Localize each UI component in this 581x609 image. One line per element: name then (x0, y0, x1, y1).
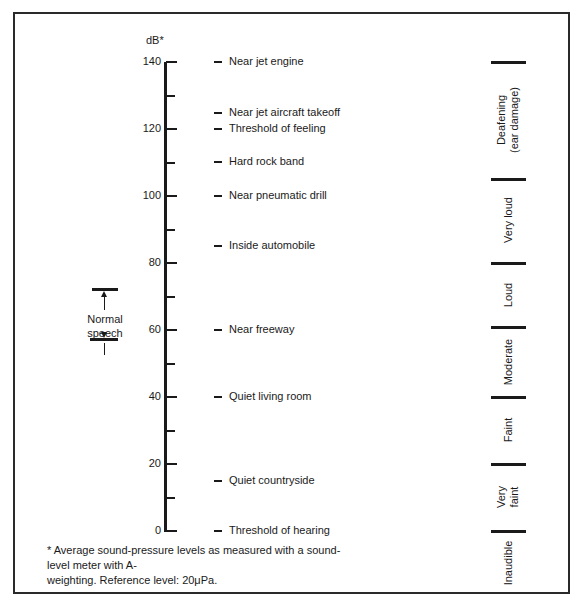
source-threshold-hearing: Threshold of hearing (214, 524, 330, 536)
dash-marker (214, 128, 222, 130)
source-label: Threshold of hearing (229, 524, 330, 536)
source-label: Hard rock band (229, 155, 304, 167)
tick-80 (166, 262, 177, 264)
category-bar (491, 326, 526, 329)
tick-40 (166, 396, 177, 398)
category-deafening: Deafening(ear damage) (495, 87, 521, 153)
minor-tick (166, 229, 175, 231)
category-bar (491, 178, 526, 181)
source-quiet-living-room: Quiet living room (214, 390, 312, 402)
source-label: Threshold of feeling (229, 122, 326, 134)
minor-tick (166, 95, 175, 97)
tick-label: 20 (121, 457, 161, 469)
source-label: Near pneumatic drill (229, 189, 327, 201)
source-threshold-feeling: Threshold of feeling (214, 122, 326, 134)
tick-label: 100 (121, 189, 161, 201)
minor-tick (166, 430, 175, 432)
dash-marker (214, 195, 222, 197)
dash-marker (214, 530, 222, 532)
category-inaudible: Inaudible (502, 541, 515, 586)
tick-120 (166, 128, 177, 130)
source-label: Near jet engine (229, 55, 304, 67)
category-bar (491, 262, 526, 265)
tick-label: 120 (121, 122, 161, 134)
category-very-faint: Veryfaint (495, 486, 521, 508)
category-very-loud: Very loud (502, 197, 515, 243)
source-near-freeway: Near freeway (214, 323, 294, 335)
speech-bottom-bar (90, 338, 118, 341)
source-label: Quiet countryside (229, 474, 315, 486)
tick-label: 0 (121, 524, 161, 536)
dash-marker (214, 112, 222, 114)
category-label: Inaudible (502, 541, 515, 586)
category-bar (491, 463, 526, 466)
category-label: Very (495, 486, 508, 508)
axis-unit-label: dB* (146, 34, 164, 46)
source-pneumatic-drill: Near pneumatic drill (214, 189, 327, 201)
source-label: Near jet aircraft takeoff (229, 106, 340, 118)
minor-tick (166, 296, 175, 298)
tick-20 (166, 463, 177, 465)
source-label: Quiet living room (229, 390, 312, 402)
category-label: Deafening (495, 87, 508, 153)
tick-60 (166, 329, 177, 331)
category-bar (491, 61, 526, 64)
tick-label: 80 (121, 256, 161, 268)
minor-tick (166, 363, 175, 365)
category-label: Faint (502, 418, 515, 442)
source-hard-rock-band: Hard rock band (214, 155, 304, 167)
source-jet-takeoff: Near jet aircraft takeoff (214, 106, 340, 118)
speech-line1: Normal (81, 312, 129, 326)
category-bar (491, 530, 526, 533)
tick-100 (166, 195, 177, 197)
category-bar (491, 396, 526, 399)
footnote-line1: * Average sound-pressure levels as measu… (47, 543, 357, 573)
source-label: Inside automobile (229, 239, 315, 251)
category-label: Loud (502, 283, 515, 307)
footnote-line2: weighting. Reference level: 20μPa. (47, 573, 357, 588)
category-loud: Loud (502, 283, 515, 307)
dash-marker (214, 245, 222, 247)
source-inside-automobile: Inside automobile (214, 239, 315, 251)
tick-140 (166, 61, 177, 63)
dash-marker (214, 329, 222, 331)
tick-0 (166, 530, 177, 532)
category-label: faint (508, 486, 521, 508)
category-faint: Faint (502, 418, 515, 442)
source-near-jet-engine: Near jet engine (214, 55, 304, 67)
speech-line-top (104, 296, 105, 310)
footnote: * Average sound-pressure levels as measu… (47, 543, 357, 588)
category-moderate: Moderate (502, 339, 515, 385)
category-label: Moderate (502, 339, 515, 385)
category-label: Very loud (502, 197, 515, 243)
source-label: Near freeway (229, 323, 294, 335)
tick-label: 140 (121, 55, 161, 67)
dash-marker (214, 396, 222, 398)
dash-marker (214, 480, 222, 482)
figure-frame (13, 12, 570, 594)
tick-label: 40 (121, 390, 161, 402)
source-quiet-countryside: Quiet countryside (214, 474, 315, 486)
category-label: (ear damage) (508, 87, 521, 153)
dash-marker (214, 161, 222, 163)
minor-tick (166, 162, 175, 164)
speech-line-bottom (104, 343, 105, 355)
dash-marker (214, 61, 222, 63)
minor-tick (166, 497, 175, 499)
